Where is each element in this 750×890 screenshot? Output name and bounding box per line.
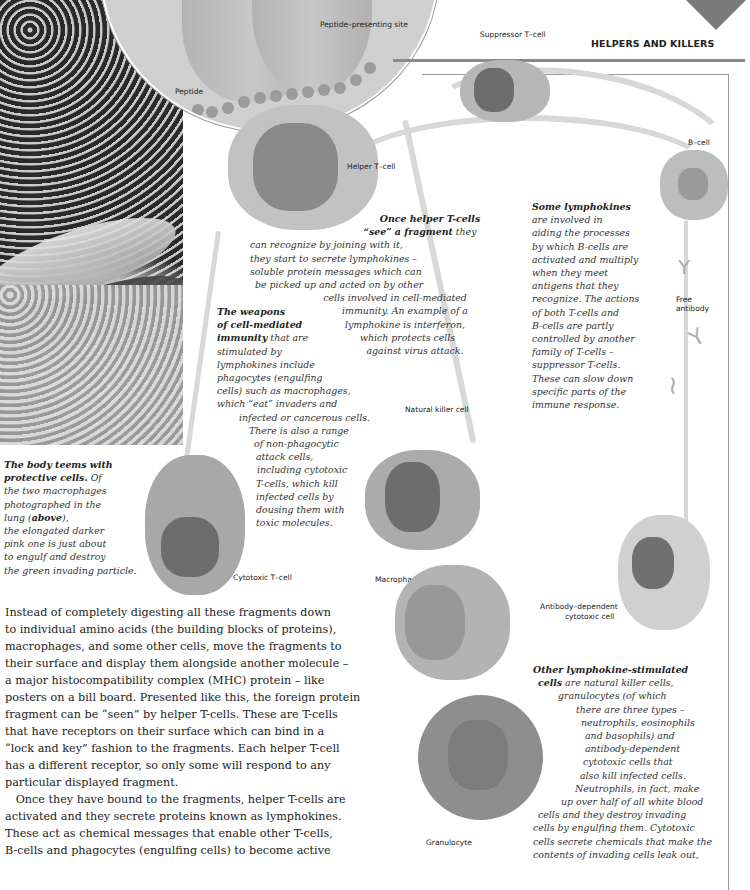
caption-line: including cytotoxic bbox=[217, 463, 417, 476]
label-helper-t-cell: Helper T–cell bbox=[347, 162, 395, 171]
caption-line: infected or cancerous cells. bbox=[217, 411, 417, 424]
antibody-dependent-cytotoxic-cell-illustration bbox=[618, 515, 710, 630]
caption-line: dousing them with bbox=[217, 503, 417, 516]
caption-line: photographed in the bbox=[4, 498, 184, 511]
body-line: “lock and key” fashion to the fragments.… bbox=[5, 740, 425, 757]
caption-line: they bbox=[456, 226, 477, 237]
photo-textured-bottom bbox=[0, 285, 183, 445]
caption-line: suppressor T-cells. bbox=[532, 358, 672, 371]
caption-line: soluble protein messages which can bbox=[250, 265, 500, 278]
caption-line: the green invading particle. bbox=[4, 564, 184, 577]
caption-line: by which B-cells are bbox=[532, 240, 672, 253]
caption-line: to engulf and destroy bbox=[4, 550, 184, 563]
label-antibody-dependent-line2: cytotoxic cell bbox=[565, 612, 614, 621]
caption-line: phagocytes (engulfing bbox=[217, 371, 417, 384]
suppressor-t-cell-illustration bbox=[460, 60, 550, 122]
caption-line: granulocytes (of which bbox=[533, 689, 738, 702]
caption-weapons-of-immunity: The weapons of cell-mediated immunity th… bbox=[217, 305, 417, 529]
label-antibody-dependent-line1: Antibody–dependent bbox=[540, 602, 618, 611]
caption-line: infected cells by bbox=[217, 490, 417, 503]
caption-line: These can slow down bbox=[532, 372, 672, 385]
body-paragraph: Instead of completely digesting all thes… bbox=[5, 604, 425, 859]
free-antibody-icon: Y bbox=[678, 255, 690, 279]
body-line: B-cells and phagocytes (engulfing cells)… bbox=[5, 842, 425, 859]
caption-line: activated and multiply bbox=[532, 253, 672, 266]
caption-line: lymphokines include bbox=[217, 358, 417, 371]
antibody-icon: Y bbox=[685, 323, 709, 351]
pathway-helper-to-cytotoxic bbox=[184, 231, 221, 459]
caption-line: can recognize by joining with it, bbox=[250, 238, 500, 251]
label-free-antibody-line2: antibody bbox=[676, 304, 709, 313]
caption-weapons-lead-3: immunity bbox=[217, 332, 267, 343]
caption-line: of both T-cells and bbox=[532, 306, 672, 319]
caption-line: are involved in bbox=[532, 213, 672, 226]
header-rule bbox=[393, 59, 745, 62]
caption-line: be picked up and acted on by other bbox=[255, 278, 500, 291]
caption-other-lead-2: cells bbox=[538, 677, 562, 688]
caption-lymphokines-lead: Some lymphokines bbox=[532, 201, 631, 212]
caption-line: which “eat” invaders and bbox=[217, 397, 417, 410]
caption-line: ), bbox=[62, 512, 69, 523]
caption-emphasis-above: above bbox=[32, 512, 62, 523]
caption-line: also kill infected cells. bbox=[533, 769, 738, 782]
caption-line: immune response. bbox=[532, 398, 672, 411]
caption-line: that are bbox=[270, 332, 308, 343]
caption-line: when they meet bbox=[532, 266, 672, 279]
caption-line: the two macrophages bbox=[4, 484, 184, 497]
caption-line: lung ( bbox=[4, 512, 32, 523]
caption-line: neutrophils, eosinophils bbox=[533, 716, 738, 729]
body-line: posters on a bill board. Presented like … bbox=[5, 689, 425, 706]
body-line: Once they have bound to the fragments, h… bbox=[5, 791, 425, 808]
label-cytotoxic-t-cell: Cytotoxic T–cell bbox=[233, 573, 292, 582]
caption-other-lymphokine-cells: Other lymphokine-stimulated cells are na… bbox=[533, 663, 738, 861]
body-line: has a different receptor, so only some w… bbox=[5, 757, 425, 774]
caption-line: they start to secrete lymphokines – bbox=[250, 252, 500, 265]
body-line: particular displayed fragment. bbox=[5, 774, 425, 791]
label-peptide: Peptide bbox=[175, 87, 203, 96]
caption-line: attack cells, bbox=[217, 450, 417, 463]
caption-line: pink one is just about bbox=[4, 537, 184, 550]
caption-body-lead-1: The body teems with bbox=[4, 459, 113, 470]
caption-line: Neutrophils, in fact, make bbox=[533, 782, 738, 795]
caption-line: cells by engulfing them. Cytotoxic bbox=[533, 821, 738, 834]
caption-line: There is also a range bbox=[217, 424, 417, 437]
body-line: Instead of completely digesting all thes… bbox=[5, 604, 425, 621]
label-peptide-presenting-site: Peptide–presenting site bbox=[320, 20, 408, 29]
caption-line: of non-phagocytic bbox=[217, 437, 417, 450]
caption-line: family of T-cells – bbox=[532, 345, 672, 358]
caption-line: aiding the processes bbox=[532, 226, 672, 239]
caption-line: the elongated darker bbox=[4, 524, 184, 537]
caption-line: specific parts of the bbox=[532, 385, 672, 398]
caption-line: and basophils) and bbox=[533, 729, 738, 742]
caption-line: there are three types – bbox=[533, 703, 738, 716]
body-line: their surface and display them alongside… bbox=[5, 655, 425, 672]
caption-some-lymphokines: Some lymphokines are involved in aiding … bbox=[532, 200, 672, 411]
caption-line: cytotoxic cells that bbox=[533, 755, 738, 768]
label-b-cell: B–cell bbox=[688, 138, 710, 147]
caption-line: cells and they destroy invading bbox=[533, 808, 738, 821]
caption-line: T-cells, which kill bbox=[217, 477, 417, 490]
caption-line: cells) such as macrophages, bbox=[217, 384, 417, 397]
caption-line: cells secrete chemicals that make the bbox=[533, 835, 738, 848]
body-line: fragment can be “seen” by helper T-cells… bbox=[5, 706, 425, 723]
body-line: to individual amino acids (the building … bbox=[5, 621, 425, 638]
caption-weapons-lead-2: of cell-mediated bbox=[217, 319, 302, 330]
section-marker-triangle-icon bbox=[686, 0, 746, 30]
caption-line: recognize. The actions bbox=[532, 292, 672, 305]
label-granulocyte: Granulocyte bbox=[426, 838, 472, 847]
caption-body-lead-2: protective cells. bbox=[4, 472, 88, 483]
caption-line: up over half of all white blood bbox=[533, 795, 738, 808]
body-line: a major histocompatibility complex (MHC)… bbox=[5, 672, 425, 689]
caption-weapons-lead-1: The weapons bbox=[217, 306, 285, 317]
caption-line: controlled by another bbox=[532, 332, 672, 345]
caption-other-lead-1: Other lymphokine-stimulated bbox=[533, 664, 688, 675]
caption-line: are natural killer cells, bbox=[565, 677, 673, 688]
caption-line: stimulated by bbox=[217, 345, 417, 358]
caption-line: antibody-dependent bbox=[533, 742, 738, 755]
caption-helper-lead-2: “see” a fragment bbox=[364, 226, 453, 237]
body-line: macrophages, and some other cells, move … bbox=[5, 638, 425, 655]
caption-line: antigens that they bbox=[532, 279, 672, 292]
label-suppressor-t-cell: Suppressor T–cell bbox=[480, 30, 546, 39]
caption-line: Of bbox=[91, 472, 102, 483]
label-free-antibody-line1: Free bbox=[676, 295, 692, 304]
